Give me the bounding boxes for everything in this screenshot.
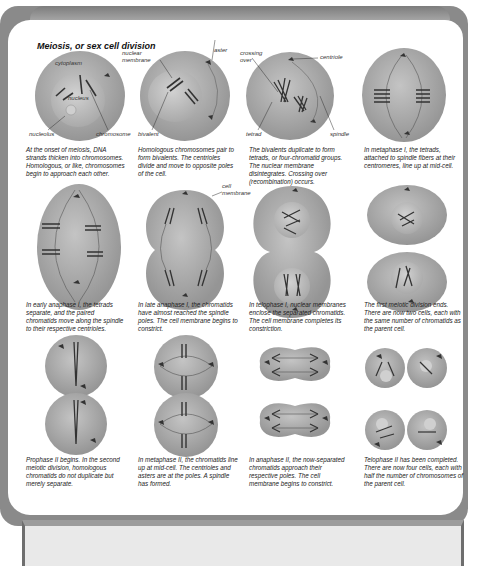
label-nucleolus: nucleolus: [29, 131, 54, 138]
caption-anaphase-2: In anaphase II, the now-separated chroma…: [249, 456, 349, 488]
label-bivalent: bivalent: [138, 131, 159, 138]
cell-anaphase-1-early: [37, 184, 121, 310]
label-crossing-over: crossing over: [240, 50, 266, 64]
cell-telophase-1: [253, 186, 330, 318]
caption-telophase-1: In telophase I, nuclear membranes enclos…: [249, 301, 349, 333]
cell-metaphase-2: [154, 335, 218, 457]
caption-anaphase-1-late: In late anaphase I, the chromatids have …: [138, 301, 238, 333]
label-aster: aster: [214, 47, 227, 54]
label-nucleus: nucleus: [68, 95, 89, 102]
cell-anaphase-2: [260, 347, 330, 437]
label-nuclear-membrane: nuclear membrane: [122, 50, 152, 64]
label-chromosome: chromosome: [96, 131, 131, 138]
caption-metaphase-1: In metaphase I, the tetrads, attached to…: [364, 146, 464, 170]
caption-prophase-2: Prophase II begins. In the second meioti…: [26, 456, 126, 488]
caption-division-1-end: The first meiotic division ends. There a…: [364, 301, 464, 333]
cell-anaphase-1-late: [146, 190, 224, 310]
label-spindle: spindle: [330, 131, 349, 138]
cell-telophase-2: [365, 348, 447, 450]
label-centriole: centriole: [320, 54, 343, 61]
label-tetrad: tetrad: [246, 131, 261, 138]
label-cell-membrane: cell membrane: [222, 183, 252, 197]
cell-prophase-2: [45, 335, 107, 455]
caption-telophase-2: Telophase II has been completed. There a…: [364, 456, 464, 488]
caption-prophase-1-bivalents: Homologous chromosomes pair to form biva…: [138, 146, 238, 178]
cell-prophase-1-tetrads: [246, 52, 334, 140]
caption-prophase-1-early: At the onset of meiosis, DNA strands thi…: [26, 146, 126, 178]
cell-metaphase-1: [362, 48, 446, 142]
label-cytoplasm: cytoplasm: [55, 60, 82, 67]
caption-metaphase-2: In metaphase II, the chromatids line up …: [138, 456, 238, 488]
caption-prophase-1-tetrads: The bivalents duplicate to form tetrads,…: [249, 146, 349, 186]
cell-prophase-1-bivalents: [140, 40, 230, 141]
caption-anaphase-1-early: In early anaphase I, the tetrads separat…: [26, 301, 126, 333]
cell-division-1-end: [367, 185, 447, 312]
